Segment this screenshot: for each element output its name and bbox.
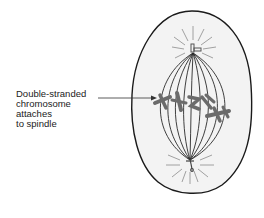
cell-diagram: [0, 0, 264, 218]
